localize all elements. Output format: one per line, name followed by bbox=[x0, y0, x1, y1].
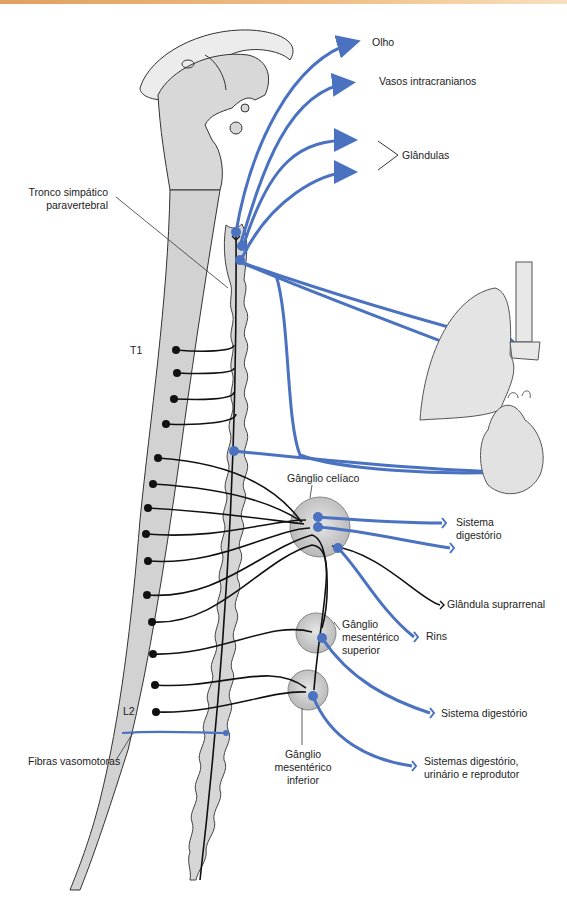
label-ganglio-mesenterico-inferior: Gânglio mesentérico inferior bbox=[270, 748, 336, 787]
label-sistemas-digestorio-urinario-reprodutor: Sistemas digestório, urinário e reprodut… bbox=[424, 755, 519, 781]
label-rins: Rins bbox=[426, 630, 447, 643]
label-sistema-digestorio-2: Sistema digestório bbox=[441, 707, 527, 720]
label-tronco-simpatico: Tronco simpático paravertebral bbox=[22, 186, 108, 212]
label-sistema-digestorio-1: Sistema digestório bbox=[456, 516, 502, 542]
glandulas-bracket bbox=[378, 141, 398, 170]
postganglionic-terminals bbox=[412, 518, 454, 771]
brain-illustration bbox=[140, 30, 293, 190]
vasomotor-fibers bbox=[122, 732, 226, 733]
label-ganglio-mesenterico-superior: Gânglio mesentérico superior bbox=[342, 618, 399, 657]
label-olho: Olho bbox=[372, 36, 394, 49]
label-vasos-intracranianos: Vasos intracranianos bbox=[379, 75, 476, 88]
label-glandula-suprarrenal: Glândula suprarrenal bbox=[447, 598, 545, 611]
label-fibras-vasomotoras: Fibras vasomotoras bbox=[28, 755, 120, 768]
label-ganglio-celiaco: Gânglio celíaco bbox=[287, 472, 359, 485]
inferior-mesenteric-ganglion bbox=[288, 670, 328, 710]
label-t1: T1 bbox=[130, 344, 142, 357]
label-glandulas: Glândulas bbox=[402, 149, 449, 162]
label-l2: L2 bbox=[123, 705, 135, 718]
